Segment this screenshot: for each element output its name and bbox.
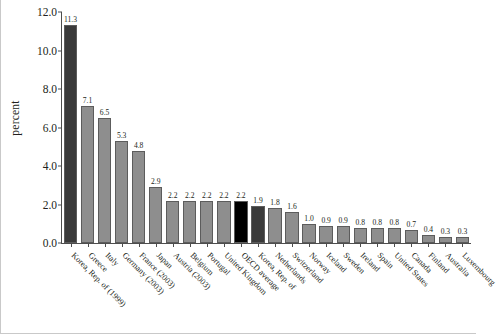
bar (268, 208, 281, 243)
bar (337, 226, 350, 243)
x-axis-tick-mark (275, 243, 276, 247)
bar (388, 228, 401, 243)
bar-value-label: 6.5 (100, 108, 110, 117)
bar-group: 1.8Netherlands (267, 12, 284, 243)
bar-value-label: 0.8 (373, 218, 383, 227)
x-axis-tick-mark (377, 243, 378, 247)
bar-value-label: 1.8 (270, 198, 280, 207)
bar (234, 201, 247, 243)
bar-value-label: 0.7 (407, 220, 417, 229)
y-axis-tick-label: 2.0 (43, 199, 57, 211)
x-axis-tick-mark (292, 243, 293, 247)
y-axis-tick-label: 12.0 (37, 6, 57, 18)
bar-group: 0.7Canada (403, 12, 420, 243)
bar-value-label: 0.8 (390, 218, 400, 227)
x-axis-tick-mark (207, 243, 208, 247)
x-axis-tick-mark (394, 243, 395, 247)
bar (422, 235, 435, 243)
bar-group: 2.9Japan (147, 12, 164, 243)
bar (132, 151, 145, 243)
y-axis-tick-label: 8.0 (43, 83, 57, 95)
bar-value-label: 1.6 (287, 202, 297, 211)
x-axis-tick-mark (156, 243, 157, 247)
x-axis-tick-mark (445, 243, 446, 247)
plot-area: 0.02.04.06.08.010.012.011.3Korea, Rep. o… (62, 12, 471, 243)
bar-group: 1.9Korea, Rep. of (249, 12, 266, 243)
x-axis-tick-mark (224, 243, 225, 247)
x-axis-tick-mark (139, 243, 140, 247)
bar (251, 206, 264, 243)
bar-group: 0.8Spain (369, 12, 386, 243)
bar-group: 4.8France (2003) (130, 12, 147, 243)
x-axis-tick-mark (258, 243, 259, 247)
bar-group: 1.6Switzerland (284, 12, 301, 243)
bar-group: 0.3Australia (437, 12, 454, 243)
bar-group: 1.0Norway (301, 12, 318, 243)
bar (200, 201, 213, 243)
bar (354, 228, 367, 243)
bar-group: 0.3Luxembourg (454, 12, 471, 243)
bar (302, 224, 315, 243)
x-axis-tick-mark (343, 243, 344, 247)
y-axis-tick-label: 10.0 (37, 45, 57, 57)
x-axis-tick-mark (309, 243, 310, 247)
bar-group: 2.2Austria (2003) (164, 12, 181, 243)
bar-group: 0.9Iceland (318, 12, 335, 243)
y-axis-label: percent (9, 58, 21, 178)
bar-group: 0.8United States (386, 12, 403, 243)
bar-value-label: 0.3 (458, 227, 468, 236)
x-axis-tick-mark (88, 243, 89, 247)
bar-value-label: 0.9 (338, 216, 348, 225)
bar-group: 0.4Finland (420, 12, 437, 243)
bar-group: 0.9Sweden (335, 12, 352, 243)
x-axis-tick-mark (411, 243, 412, 247)
x-axis-tick-mark (190, 243, 191, 247)
bar (81, 106, 94, 243)
bar (149, 187, 162, 243)
x-axis-tick-mark (122, 243, 123, 247)
bar-group: 2.2Portugal (198, 12, 215, 243)
bar-value-label: 4.8 (134, 141, 144, 150)
bar-value-label: 5.3 (117, 131, 127, 140)
bar (319, 226, 332, 243)
bar (64, 25, 77, 243)
x-axis-tick-mark (360, 243, 361, 247)
bar-value-label: 2.9 (151, 177, 161, 186)
bar-group: 11.3Korea, Rep. of (1999) (62, 12, 79, 243)
bar (98, 118, 111, 243)
x-axis-tick-mark (462, 243, 463, 247)
x-axis-tick-mark (105, 243, 106, 247)
y-axis-tick-label: 6.0 (43, 122, 57, 134)
bar-value-label: 2.2 (236, 191, 246, 200)
bar-value-label: 2.2 (168, 191, 178, 200)
bar-value-label: 2.2 (202, 191, 212, 200)
bar-group: 0.8Ireland (352, 12, 369, 243)
bar-value-label: 1.0 (304, 214, 314, 223)
bar-value-label: 11.3 (64, 15, 77, 24)
bar (285, 212, 298, 243)
x-axis-tick-mark (241, 243, 242, 247)
y-axis-tick-label: 4.0 (43, 160, 57, 172)
y-axis-tick-label: 0.0 (43, 237, 57, 249)
bar-value-label: 2.2 (219, 191, 229, 200)
bar-value-label: 0.8 (355, 218, 365, 227)
bar-group: 2.2Belgium (181, 12, 198, 243)
bar (217, 201, 230, 243)
x-axis-tick-mark (428, 243, 429, 247)
x-axis-tick-mark (71, 243, 72, 247)
x-axis-tick-mark (173, 243, 174, 247)
bar (371, 228, 384, 243)
bar-group: 2.2OECD average (232, 12, 249, 243)
bar (115, 141, 128, 243)
bar-group: 2.2United Kingdom (215, 12, 232, 243)
bar-value-label: 0.4 (424, 225, 434, 234)
bar-value-label: 1.9 (253, 196, 263, 205)
bar-group: 5.3Germany (2003) (113, 12, 130, 243)
bar (183, 201, 196, 243)
bar-value-label: 2.2 (185, 191, 195, 200)
bar (166, 201, 179, 243)
bar-value-label: 0.3 (441, 227, 451, 236)
bar-group: 7.1Greece (79, 12, 96, 243)
bar-group: 6.5Italy (96, 12, 113, 243)
